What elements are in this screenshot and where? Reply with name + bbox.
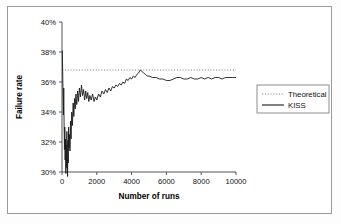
x-tick-label: 0 xyxy=(60,177,64,186)
x-tick-label: 6000 xyxy=(158,177,175,186)
x-tick-label: 10000 xyxy=(225,177,246,186)
x-axis: 0200040006000800010000 xyxy=(60,172,247,186)
y-axis-title: Failure rate xyxy=(15,74,24,119)
x-tick-label: 2000 xyxy=(88,177,105,186)
legend-label-kiss: KISS xyxy=(288,101,306,110)
x-tick-label: 4000 xyxy=(123,177,140,186)
y-tick-label: 40% xyxy=(41,18,56,27)
figure-container: 30%32%34%36%38%40% 020004000600080001000… xyxy=(0,0,341,224)
y-tick-label: 32% xyxy=(41,138,56,147)
y-tick-label: 36% xyxy=(41,78,56,87)
chart-legend[interactable]: TheoreticalKISS xyxy=(257,85,329,113)
x-axis-title: Number of runs xyxy=(119,192,180,201)
y-tick-label: 30% xyxy=(41,168,56,177)
y-tick-label: 34% xyxy=(41,108,56,117)
x-tick-label: 8000 xyxy=(193,177,210,186)
chart-plot: 30%32%34%36%38%40% 020004000600080001000… xyxy=(0,0,341,224)
y-tick-label: 38% xyxy=(41,48,56,57)
y-axis: 30%32%34%36%38%40% xyxy=(41,18,62,177)
legend-label-theoretical: Theoretical xyxy=(288,90,327,99)
